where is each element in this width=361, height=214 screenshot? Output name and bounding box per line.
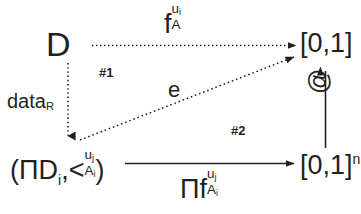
product-order-relation-superscript: u <box>84 147 92 162</box>
node-unit-interval-power-n: [0,1]n <box>300 152 360 179</box>
edge-label-prod-f-letter: f <box>200 174 208 204</box>
product-order-relation-symbol: < <box>69 155 85 185</box>
product-order-d-letter: D <box>39 155 59 185</box>
edge-label-prod-f-superscript-sub: j <box>215 172 217 182</box>
edge-label-f-a: fuiA <box>164 6 181 38</box>
edge-label-prod-pi-symbol: Π <box>180 174 200 204</box>
edge-label-e: e <box>168 79 180 101</box>
edge-label-prod-f: ΠfujAi <box>180 171 218 203</box>
product-order-close-paren: ) <box>95 155 104 185</box>
node-unit-interval: [0,1] <box>300 30 353 57</box>
edge-label-e-text: e <box>168 77 180 102</box>
node-unit-interval-label: [0,1] <box>300 28 353 58</box>
edge-label-at-text: @ <box>304 69 332 94</box>
product-order-relation-indices: ujAi <box>84 148 95 177</box>
product-order-relation-superscript-group: uj <box>84 148 95 162</box>
node-unit-interval-power-exponent: n <box>353 151 361 167</box>
edge-label-data-r: dataR <box>7 91 54 111</box>
edge-label-data-subscript: R <box>46 100 54 112</box>
edge-label-prod-f-subscript-sub: i <box>216 188 218 198</box>
edge-label-at: @ <box>306 69 331 94</box>
node-unit-interval-power-base: [0,1] <box>300 150 353 180</box>
product-order-comma: , <box>61 155 69 185</box>
node-domain-d: D <box>46 27 71 61</box>
edge-label-f-superscript-sub: i <box>179 7 181 17</box>
region-marker-1: #1 <box>99 66 113 79</box>
product-order-pi-symbol: Π <box>19 155 39 185</box>
edge-label-prod-f-subscript-group: Ai <box>207 183 218 197</box>
edge-label-prod-f-superscript-group: uj <box>207 167 218 181</box>
edge-label-f-subscript: A <box>172 18 182 32</box>
region-marker-2: #2 <box>231 124 245 137</box>
edge-label-f-superscript-group: ui <box>172 2 182 16</box>
commutative-diagram: D [0,1] [0,1]n (ΠDi,<ujAi) fuiA dataR e … <box>0 0 361 214</box>
edge-label-prod-f-subscript: A <box>207 182 216 197</box>
edge-label-f-superscript: u <box>172 1 180 16</box>
node-product-order: (ΠDi,<ujAi) <box>10 152 104 187</box>
product-order-open-paren: ( <box>10 155 19 185</box>
edge-label-prod-f-indices: ujAi <box>207 167 218 196</box>
product-order-relation-superscript-sub: j <box>92 153 94 163</box>
product-order-relation-subscript-sub: i <box>93 169 95 179</box>
product-order-relation-subscript-group: Ai <box>84 164 95 178</box>
edge-label-f-letter: f <box>164 9 172 39</box>
edge-label-prod-f-superscript: u <box>207 166 215 181</box>
edge-label-f-indices: uiA <box>172 2 182 31</box>
edge-label-data-text: data <box>7 90 46 112</box>
node-domain-label: D <box>46 25 71 63</box>
